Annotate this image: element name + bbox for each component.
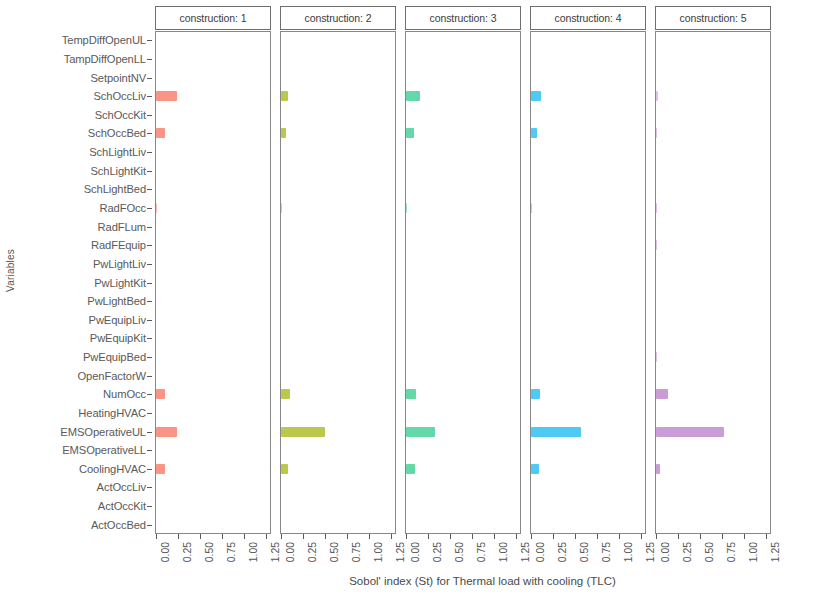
y-axis-label-pwequipliv: PwEquipLiv bbox=[89, 314, 146, 326]
x-axis-tick bbox=[516, 534, 517, 539]
x-axis-tick-label: 0.50 bbox=[204, 542, 215, 562]
y-axis-tick bbox=[147, 283, 152, 284]
x-axis-tick bbox=[281, 534, 282, 539]
y-axis-tick bbox=[147, 338, 152, 339]
x-axis-tick-label: 1.25 bbox=[270, 542, 281, 562]
bar-5-schoccliv bbox=[656, 91, 658, 101]
bar-5-radfocc bbox=[656, 203, 657, 213]
x-axis-tick-label: 0.50 bbox=[579, 542, 590, 562]
x-axis-tick bbox=[494, 534, 495, 539]
facet-strip-label-4: construction: 4 bbox=[530, 6, 646, 30]
x-axis-tick-label: 0.00 bbox=[410, 542, 421, 562]
y-axis-label-pwequipkit: PwEquipKit bbox=[90, 332, 146, 344]
bar-4-schoccbed bbox=[531, 128, 537, 138]
x-axis-tick-label: 0.50 bbox=[329, 542, 340, 562]
x-axis-tick-label: 1.25 bbox=[770, 542, 781, 562]
x-axis-tick bbox=[700, 534, 701, 539]
x-axis-tick bbox=[619, 534, 620, 539]
x-axis-tick bbox=[178, 534, 179, 539]
y-axis-tick bbox=[147, 171, 152, 172]
bar-5-schoccbed bbox=[656, 128, 657, 138]
x-axis-tick-label: 0.25 bbox=[682, 542, 693, 562]
x-axis-tick bbox=[303, 534, 304, 539]
facet-plot-area-5 bbox=[655, 31, 771, 534]
x-axis-tick-label: 1.00 bbox=[623, 542, 634, 562]
x-axis-tick-label: 0.25 bbox=[307, 542, 318, 562]
y-axis-tick bbox=[147, 357, 152, 358]
y-axis-label-openfactorw: OpenFactorW bbox=[77, 370, 146, 382]
y-axis-label-actocckit: ActOccKit bbox=[98, 500, 146, 512]
bar-1-schoccliv bbox=[156, 91, 177, 101]
bar-2-emsoperativeul bbox=[281, 427, 325, 437]
x-axis-tick bbox=[597, 534, 598, 539]
x-axis-tick-label: 0.75 bbox=[476, 542, 487, 562]
x-axis-tick-label: 0.25 bbox=[182, 542, 193, 562]
bar-2-schoccbed bbox=[281, 128, 286, 138]
x-axis-tick-label: 0.50 bbox=[704, 542, 715, 562]
x-axis-tick bbox=[744, 534, 745, 539]
bar-3-emsoperativeul bbox=[406, 427, 435, 437]
bar-1-coolinghvac bbox=[156, 464, 165, 474]
sobol-index-facet-chart: Variables TempDiffOpenULTampDiffOpenLLSe… bbox=[0, 0, 813, 600]
y-axis-tick bbox=[147, 450, 152, 451]
y-axis-label-pwlightbed: PwLightBed bbox=[87, 295, 146, 307]
x-axis-tick-label: 0.00 bbox=[285, 542, 296, 562]
x-axis-tick bbox=[391, 534, 392, 539]
y-axis-tick bbox=[147, 245, 152, 246]
bar-3-schoccliv bbox=[406, 91, 420, 101]
x-axis-tick bbox=[406, 534, 407, 539]
y-axis-label-pwequipbed: PwEquipBed bbox=[83, 351, 146, 363]
y-axis-label-actoccbed: ActOccBed bbox=[91, 519, 146, 531]
facet-panel-3: construction: 3 bbox=[405, 6, 521, 534]
y-axis-title-text: Variables bbox=[5, 249, 16, 292]
bar-5-numocc bbox=[656, 389, 668, 399]
x-axis-tick bbox=[531, 534, 532, 539]
facet-plot-area-4 bbox=[530, 31, 646, 534]
y-axis-tick bbox=[147, 115, 152, 116]
facet-strip-label-1: construction: 1 bbox=[155, 6, 271, 30]
bar-3-coolinghvac bbox=[406, 464, 415, 474]
facet-strip-label-5: construction: 5 bbox=[655, 6, 771, 30]
x-axis-tick-label: 0.00 bbox=[535, 542, 546, 562]
x-axis-tick-label: 0.75 bbox=[226, 542, 237, 562]
x-axis-tick-label: 0.25 bbox=[557, 542, 568, 562]
y-axis-tick bbox=[147, 413, 152, 414]
y-axis-label-schoccbed: SchOccBed bbox=[88, 127, 146, 139]
y-axis-label-numocc: NumOcc bbox=[103, 388, 146, 400]
facet-panel-4: construction: 4 bbox=[530, 6, 646, 534]
bar-1-radfocc bbox=[156, 203, 157, 213]
y-axis-label-emsoperativeul: EMSOperativeUL bbox=[60, 426, 146, 438]
x-axis-tick bbox=[244, 534, 245, 539]
y-axis-label-radflum: RadFLum bbox=[98, 221, 146, 233]
bar-3-schoccbed bbox=[406, 128, 414, 138]
x-axis-tick-label: 0.75 bbox=[726, 542, 737, 562]
facet-plot-area-1 bbox=[155, 31, 271, 534]
x-axis-tick bbox=[266, 534, 267, 539]
x-axis-tick bbox=[428, 534, 429, 539]
y-axis-tick bbox=[147, 320, 152, 321]
x-axis-tick-label: 1.25 bbox=[645, 542, 656, 562]
facet-panel-2: construction: 2 bbox=[280, 6, 396, 534]
facet-plot-area-2 bbox=[280, 31, 396, 534]
y-axis-tick bbox=[147, 376, 152, 377]
y-axis-label-schlightliv: SchLightLiv bbox=[89, 146, 146, 158]
y-axis-label-tempdiffopenul: TempDiffOpenUL bbox=[62, 34, 146, 46]
bar-2-numocc bbox=[281, 389, 290, 399]
bar-2-coolinghvac bbox=[281, 464, 288, 474]
bar-2-schoccliv bbox=[281, 91, 288, 101]
x-axis-tick-label: 0.75 bbox=[601, 542, 612, 562]
y-axis-label-schlightkit: SchLightKit bbox=[91, 165, 147, 177]
y-axis-tick bbox=[147, 227, 152, 228]
y-axis-label-emsoperativell: EMSOperativeLL bbox=[62, 444, 146, 456]
x-axis-tick-label: 1.25 bbox=[520, 542, 531, 562]
y-axis-tick bbox=[147, 506, 152, 507]
x-axis-tick bbox=[222, 534, 223, 539]
x-axis-tick-label: 1.00 bbox=[748, 542, 759, 562]
y-axis-label-setpointnv: SetpointNV bbox=[90, 72, 146, 84]
y-axis-label-pwlightkit: PwLightKit bbox=[94, 277, 146, 289]
x-axis-tick bbox=[369, 534, 370, 539]
bar-1-emsoperativeul bbox=[156, 427, 177, 437]
x-axis-tick bbox=[766, 534, 767, 539]
x-axis-title: Sobol' index (St) for Thermal load with … bbox=[155, 575, 810, 587]
x-axis-tick-label: 0.00 bbox=[160, 542, 171, 562]
